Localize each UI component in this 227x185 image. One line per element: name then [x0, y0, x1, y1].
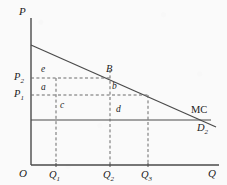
y-tick-p2-sub: 2: [20, 77, 24, 85]
y-axis-label: P: [19, 6, 26, 17]
x-tick-q1-sub: 1: [57, 175, 61, 183]
demand-curve-label: D2: [197, 123, 208, 136]
demand-curve: [31, 45, 216, 127]
x-tick-q2-sub: 2: [111, 175, 115, 183]
x-tick-q1: Q1: [49, 170, 60, 183]
x-tick-q3: Q3: [141, 170, 152, 183]
y-tick-p2: P2: [14, 72, 24, 85]
demand-curve-label-sub: 2: [205, 128, 209, 136]
x-axis-label: Q: [208, 168, 216, 179]
economics-diagram: P Q O P2 P1 Q1 Q2 Q3 B MC D2 e a b c d: [0, 0, 227, 185]
region-label-e: e: [41, 65, 45, 75]
origin-label: O: [19, 168, 27, 179]
x-tick-q1-base: Q: [49, 169, 57, 180]
diagram-canvas: [0, 0, 227, 185]
region-label-a: a: [41, 83, 46, 93]
region-label-c: c: [60, 101, 64, 111]
region-label-b: b: [112, 82, 117, 92]
point-b-label: B: [106, 64, 112, 75]
x-tick-q3-sub: 3: [149, 175, 153, 183]
demand-curve-label-base: D: [197, 122, 205, 133]
x-tick-q3-base: Q: [141, 169, 149, 180]
x-tick-q2: Q2: [103, 170, 114, 183]
region-label-d: d: [116, 105, 121, 115]
x-tick-q2-base: Q: [103, 169, 111, 180]
y-tick-p1-sub: 1: [20, 94, 24, 102]
marginal-cost-label: MC: [191, 105, 207, 116]
y-tick-p1: P1: [14, 89, 24, 102]
